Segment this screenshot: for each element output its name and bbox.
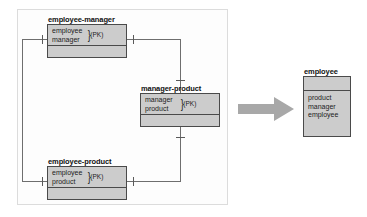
connector-top-right-horizontal <box>127 39 181 40</box>
transform-arrow <box>238 97 294 121</box>
connector-top-left-horizontal <box>22 39 49 40</box>
connector-left-vertical <box>22 39 23 181</box>
cardinality-tick-top-right <box>133 35 134 44</box>
entity-empty-compartment-employee-manager <box>48 46 126 57</box>
cardinality-tick-bottom-left <box>42 177 43 186</box>
cardinality-tick-bottom-right <box>133 177 134 186</box>
attribute-row: manager <box>308 103 346 112</box>
brace-icon: } <box>88 31 91 38</box>
diagram-canvas: employee-manager employee manager } (PK)… <box>0 0 367 217</box>
brace-icon: } <box>88 173 91 180</box>
primary-key-annotation-employee-manager: } (PK) <box>87 31 103 38</box>
entity-header-compartment-employee <box>304 77 350 91</box>
primary-key-annotation-employee-product: } (PK) <box>87 173 103 180</box>
cardinality-tick-top-left <box>42 35 43 44</box>
attribute-row: product <box>308 94 346 103</box>
primary-key-label: (PK) <box>183 100 196 107</box>
primary-key-annotation-manager-product: } (PK) <box>180 100 196 107</box>
primary-key-label: (PK) <box>90 31 103 38</box>
entity-employee[interactable]: product manager employee <box>303 76 351 137</box>
entity-empty-compartment-employee-product <box>48 188 126 199</box>
connector-bottom-left-horizontal <box>22 181 49 182</box>
entity-title-employee-manager: employee-manager <box>48 15 115 24</box>
cardinality-tick-middle-bottom <box>176 137 185 138</box>
entity-empty-compartment-manager-product <box>141 115 219 126</box>
cardinality-tick-middle-top <box>176 80 185 81</box>
brace-icon: } <box>181 100 184 107</box>
primary-key-label: (PK) <box>90 173 103 180</box>
entity-title-manager-product: manager-product <box>141 84 201 93</box>
connector-bottom-right-horizontal <box>127 181 181 182</box>
entity-title-employee: employee <box>304 67 338 76</box>
attribute-row: employee <box>308 111 346 120</box>
entity-title-employee-product: employee-product <box>48 157 111 166</box>
entity-attributes-employee: product manager employee <box>304 91 350 136</box>
